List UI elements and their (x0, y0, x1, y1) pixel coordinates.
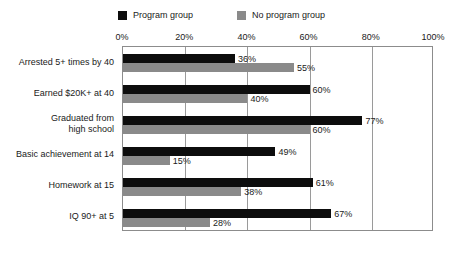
x-axis-tick-label: 0% (115, 32, 128, 43)
bar-value-label-no-program-group: 40% (250, 95, 268, 104)
category-label: Homework at 15 (48, 180, 114, 191)
bar-value-label-no-program-group: 38% (244, 188, 262, 197)
x-axis-tick-label: 100% (421, 32, 444, 43)
gridline (310, 47, 311, 230)
bar-chart: Program group No program group 0%20%40%6… (0, 0, 454, 259)
category-label: Arrested 5+ times by 40 (19, 57, 114, 68)
bar-no-program-group (123, 63, 294, 72)
bar-value-label-program-group: 77% (365, 117, 383, 126)
x-axis-tick-label: 80% (362, 32, 380, 43)
x-axis-tick-label: 40% (237, 32, 255, 43)
x-axis-tick-label: 60% (300, 32, 318, 43)
category-label: Graduated from high school (51, 113, 114, 135)
bar-no-program-group (123, 94, 247, 103)
bar-program-group (123, 85, 310, 94)
bar-program-group (123, 147, 275, 156)
bar-no-program-group (123, 156, 170, 165)
bar-value-label-no-program-group: 28% (213, 219, 231, 228)
legend-label-no-program-group: No program group (252, 10, 325, 20)
chart-legend: Program group No program group (118, 8, 325, 22)
bar-program-group (123, 209, 331, 218)
x-axis-tick-labels: 0%20%40%60%80%100% (0, 32, 454, 44)
bar-value-label-no-program-group: 55% (297, 64, 315, 73)
x-axis-tick-label: 20% (175, 32, 193, 43)
plot-area: 36%55%60%40%77%60%49%15%61%38%67%28% (122, 46, 433, 231)
gridline (247, 47, 248, 230)
y-axis-category-labels: Arrested 5+ times by 40Earned $20K+ at 4… (0, 46, 118, 231)
category-label: IQ 90+ at 5 (69, 211, 114, 222)
bar-no-program-group (123, 187, 241, 196)
legend-label-program-group: Program group (133, 10, 193, 20)
legend-swatch-icon-program-group (118, 11, 127, 20)
bar-value-label-program-group: 67% (334, 210, 352, 219)
bar-value-label-program-group: 61% (316, 179, 334, 188)
bar-no-program-group (123, 218, 210, 227)
bar-value-label-program-group: 60% (313, 86, 331, 95)
gridline (185, 47, 186, 230)
legend-swatch-icon-no-program-group (237, 11, 246, 20)
category-label: Basic achievement at 14 (16, 149, 114, 160)
bar-no-program-group (123, 125, 310, 134)
bar-program-group (123, 116, 362, 125)
gridline (372, 47, 373, 230)
bar-value-label-program-group: 49% (278, 148, 296, 157)
bar-program-group (123, 54, 235, 63)
bar-program-group (123, 178, 313, 187)
bar-value-label-no-program-group: 15% (173, 157, 191, 166)
legend-entry-program-group: Program group (118, 8, 193, 22)
legend-entry-no-program-group: No program group (237, 8, 325, 22)
category-label: Earned $20K+ at 40 (34, 88, 114, 99)
bar-value-label-no-program-group: 60% (313, 126, 331, 135)
